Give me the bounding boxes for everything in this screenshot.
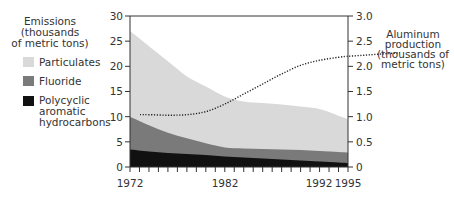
legend-swatch-pah bbox=[23, 96, 34, 106]
svg-text:2.5: 2.5 bbox=[356, 35, 373, 47]
svg-text:1.0: 1.0 bbox=[356, 111, 373, 123]
svg-text:15: 15 bbox=[110, 85, 123, 97]
x-axis-ticks: 1972 1982 1992 1995 bbox=[117, 177, 362, 189]
legend-swatch-fluoride bbox=[23, 76, 34, 86]
legend-label-pah-3: hydrocarbons bbox=[39, 116, 111, 128]
svg-text:1992: 1992 bbox=[306, 177, 333, 189]
svg-text:1972: 1972 bbox=[117, 177, 144, 189]
svg-text:0.5: 0.5 bbox=[356, 136, 373, 148]
svg-text:25: 25 bbox=[110, 35, 123, 47]
svg-text:10: 10 bbox=[110, 111, 123, 123]
svg-text:0: 0 bbox=[116, 161, 123, 173]
legend-label-fluoride: Fluoride bbox=[39, 75, 81, 87]
svg-text:5: 5 bbox=[116, 136, 123, 148]
svg-text:of metric tons): of metric tons) bbox=[11, 37, 88, 49]
svg-text:3.0: 3.0 bbox=[356, 10, 373, 22]
svg-text:30: 30 bbox=[110, 10, 123, 22]
right-axis-title: Aluminum production (thousands of metric… bbox=[377, 28, 449, 70]
legend: Particulates Fluoride Polycyclic aromati… bbox=[23, 56, 111, 128]
legend-swatch-particulates bbox=[23, 57, 34, 67]
left-axis-ticks: 0 5 10 15 20 25 30 bbox=[110, 10, 123, 173]
svg-text:1995: 1995 bbox=[335, 177, 362, 189]
emissions-chart: Emissions (thousands of metric tons) Par… bbox=[0, 0, 454, 204]
svg-text:0: 0 bbox=[356, 161, 363, 173]
legend-label-particulates: Particulates bbox=[39, 56, 100, 68]
svg-text:1982: 1982 bbox=[212, 177, 239, 189]
right-axis-ticks: 0 0.5 1.0 1.5 2.0 2.5 3.0 bbox=[356, 10, 373, 173]
svg-text:metric tons): metric tons) bbox=[381, 58, 445, 70]
svg-text:1.5: 1.5 bbox=[356, 85, 373, 97]
svg-text:20: 20 bbox=[110, 60, 123, 72]
left-axis-title: Emissions (thousands of metric tons) bbox=[11, 15, 88, 49]
svg-text:2.0: 2.0 bbox=[356, 60, 373, 72]
